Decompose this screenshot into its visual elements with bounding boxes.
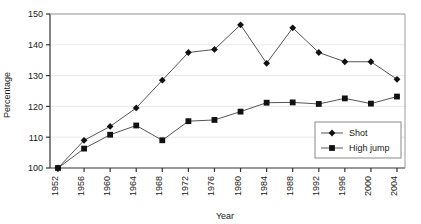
data-point-square [238, 109, 244, 115]
x-tick-label: 1980 [233, 176, 243, 196]
y-tick-label: 110 [29, 133, 43, 143]
y-tick-label: 150 [28, 9, 43, 19]
data-point-diamond [263, 60, 270, 67]
y-tick-label: 130 [28, 71, 43, 81]
x-tick-label: 1956 [76, 176, 86, 196]
x-tick-label: 1988 [285, 176, 295, 196]
x-tick-label: 1976 [206, 176, 216, 196]
data-point-diamond [341, 58, 348, 65]
y-tick-label: 100 [28, 163, 43, 173]
data-point-square [368, 101, 374, 107]
x-tick-label: 1952 [50, 176, 60, 196]
legend-marker-square [329, 145, 335, 151]
x-tick-label: 1968 [154, 176, 164, 196]
data-point-diamond [107, 123, 114, 130]
data-point-square [394, 94, 400, 100]
data-point-square [159, 137, 165, 143]
x-tick-label: 1960 [102, 176, 112, 196]
x-tick-label: 1992 [311, 176, 321, 196]
data-point-square [55, 165, 61, 171]
legend-box: ShotHigh jump [315, 122, 401, 158]
x-tick-label: 2004 [389, 176, 399, 196]
x-axis-title: Year [216, 211, 234, 221]
x-tick-label: 1972 [180, 176, 190, 196]
data-point-square [81, 146, 87, 152]
data-point-square [212, 117, 218, 123]
x-tick-label: 1984 [259, 176, 269, 196]
legend-label: High jump [349, 143, 390, 153]
data-point-square [342, 95, 348, 101]
chart-container: 100110120130140150 195219561960196419681… [0, 0, 421, 224]
y-tick-label: 140 [28, 40, 43, 50]
data-point-square [316, 101, 322, 107]
x-axis-ticks [58, 168, 397, 172]
data-point-diamond [368, 58, 375, 65]
x-tick-label: 1996 [337, 176, 347, 196]
data-point-square [133, 123, 139, 129]
y-tick-label: 120 [28, 102, 43, 112]
data-point-square [264, 100, 270, 106]
data-point-square [290, 99, 296, 105]
y-axis-title: Percentage [2, 72, 12, 118]
data-point-square [107, 132, 113, 138]
line-chart: 100110120130140150 195219561960196419681… [0, 0, 421, 224]
x-tick-label: 2000 [363, 176, 373, 196]
y-axis-tick-labels: 100110120130140150 [28, 9, 43, 173]
grid-lines [50, 14, 405, 137]
data-point-diamond [394, 76, 401, 83]
x-axis-tick-labels: 1952195619601964196819721976198019841988… [50, 176, 399, 196]
x-tick-label: 1964 [128, 176, 138, 196]
legend-label: Shot [349, 128, 368, 138]
data-point-square [185, 118, 191, 124]
